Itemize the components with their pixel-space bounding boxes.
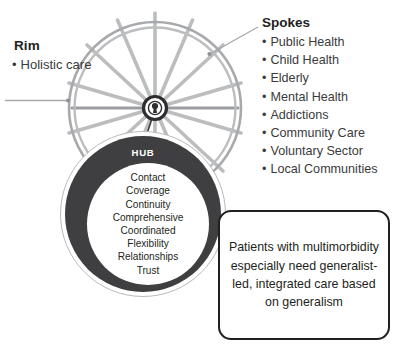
spokes-leader-dot	[207, 52, 211, 56]
hub-dark-ring: HUB Contact Coverage Continuity Comprehe…	[65, 136, 221, 292]
spokes-list-item: • Community Care	[262, 124, 402, 142]
bullet-icon: •	[262, 124, 266, 142]
spokes-leader-line	[208, 27, 258, 55]
spokes-item-label: Community Care	[270, 124, 364, 142]
callout-text: Patients with multimorbidity especially …	[228, 238, 380, 312]
spokes-item-label: Voluntary Sector	[270, 142, 362, 160]
hub-word: Coordinated	[121, 224, 176, 237]
bullet-icon: •	[262, 33, 266, 51]
bullet-icon: •	[262, 106, 266, 124]
bullet-icon: •	[262, 51, 266, 69]
spokes-list-item: • Voluntary Sector	[262, 142, 402, 160]
spokes-label-block: Spokes • Public Health • Child Health • …	[262, 15, 402, 179]
rim-label-block: Rim • Holistic care	[12, 38, 108, 73]
spokes-item-label: Addictions	[270, 106, 328, 124]
rim-item-label: Holistic care	[21, 56, 92, 73]
spokes-list-item: • Child Health	[262, 51, 402, 69]
callout-box: Patients with multimorbidity especially …	[218, 210, 390, 340]
spokes-list-item: • Addictions	[262, 106, 402, 124]
diagram-canvas: Rim • Holistic care Spokes • Public Heal…	[0, 0, 404, 350]
spokes-item-label: Child Health	[270, 51, 339, 69]
hub-word: Relationships	[118, 250, 179, 263]
hub-word: Coverage	[126, 184, 170, 197]
hub-title: HUB	[65, 147, 221, 158]
spokes-list-item: • Mental Health	[262, 88, 402, 106]
spokes-item-label: Public Health	[270, 33, 344, 51]
rim-list-item: • Holistic care	[12, 56, 108, 73]
hub-word: Trust	[137, 264, 160, 277]
spokes-list-item: • Local Communities	[262, 160, 402, 178]
bullet-icon: •	[262, 142, 266, 160]
rim-heading: Rim	[14, 38, 108, 53]
hub-word: Continuity	[126, 198, 171, 211]
spokes-item-label: Local Communities	[270, 160, 377, 178]
hub-inner-circle: Contact Coverage Continuity Comprehensiv…	[87, 163, 209, 285]
spokes-list-item: • Public Health	[262, 33, 402, 51]
bullet-icon: •	[262, 69, 266, 87]
bullet-icon: •	[262, 88, 266, 106]
hub-circle: HUB Contact Coverage Continuity Comprehe…	[60, 131, 226, 297]
spokes-heading: Spokes	[262, 15, 402, 30]
rim-leader-dot	[66, 98, 70, 102]
hub-word: Flexibility	[127, 237, 169, 250]
hub-word: Comprehensive	[113, 211, 184, 224]
bullet-icon: •	[12, 56, 17, 73]
spokes-list-item: • Elderly	[262, 69, 402, 87]
spokes-item-label: Mental Health	[270, 88, 348, 106]
spokes-item-label: Elderly	[270, 69, 309, 87]
bullet-icon: •	[262, 160, 266, 178]
hub-word: Contact	[131, 171, 166, 184]
